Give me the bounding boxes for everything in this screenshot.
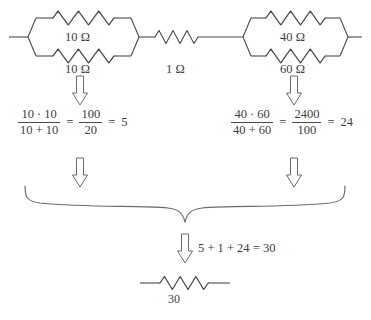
series-resistor-label: 1 Ω — [166, 63, 185, 76]
left-equals-sign-1: = — [66, 116, 73, 129]
arrow-left-equation-down — [73, 158, 88, 187]
resistor-zigzag-bottom-left — [53, 49, 114, 63]
equivalent-resistor-graphic — [140, 277, 230, 290]
right-fraction-numerator: 40 · 60 — [232, 108, 271, 121]
right-block-top-resistor-label: 40 Ω — [280, 31, 305, 44]
right-second-numerator: 2400 — [292, 108, 321, 121]
equivalent-resistor-label: 30 — [168, 293, 180, 305]
right-second-fraction: 2400 100 — [292, 108, 321, 136]
left-block-top-resistor-label: 10 Ω — [65, 31, 90, 44]
right-fraction-denominator: 40 + 60 — [231, 124, 273, 137]
right-equals-sign-1: = — [279, 116, 286, 129]
resistor-zigzag-bottom-right — [266, 49, 325, 63]
left-block-bottom-resistor-label: 10 Ω — [65, 63, 90, 76]
series-resistor-graphic — [139, 31, 243, 44]
combining-brace — [25, 186, 345, 222]
circuit-diagram-canvas — [0, 0, 371, 320]
resistor-zigzag-top-right — [266, 11, 325, 25]
right-block-bottom-resistor-label: 60 Ω — [280, 63, 305, 76]
left-equivalent-equation: 10 · 10 10 + 10 = 100 20 = 5 — [16, 108, 127, 136]
right-equivalent-equation: 40 · 60 40 + 60 = 2400 100 = 24 — [229, 108, 353, 136]
right-second-denominator: 100 — [296, 124, 319, 137]
left-equation-result: 5 — [121, 116, 127, 129]
left-second-fraction: 100 20 — [79, 108, 102, 136]
left-second-denominator: 20 — [83, 124, 100, 137]
resistor-zigzag-top-left — [53, 11, 114, 25]
right-equals-sign-2: = — [327, 116, 334, 129]
arrow-right-equation-down — [287, 158, 302, 187]
right-first-fraction: 40 · 60 40 + 60 — [231, 108, 273, 136]
arrow-left-block-down — [73, 76, 88, 105]
arrow-right-block-down — [287, 76, 302, 105]
left-second-numerator: 100 — [79, 108, 102, 121]
total-resistance-equation: 5 + 1 + 24 = 30 — [198, 242, 275, 255]
left-fraction-denominator: 10 + 10 — [18, 124, 60, 137]
arrow-total-down — [178, 234, 193, 263]
left-first-fraction: 10 · 10 10 + 10 — [18, 108, 60, 136]
right-equation-result: 24 — [340, 116, 353, 129]
left-equals-sign-2: = — [108, 116, 115, 129]
left-fraction-numerator: 10 · 10 — [19, 108, 58, 121]
